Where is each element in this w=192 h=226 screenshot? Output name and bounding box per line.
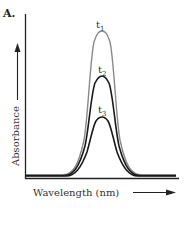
series-t1-label: t1 xyxy=(96,19,105,33)
series-t2-label: t2 xyxy=(98,64,107,78)
y-axis-label: Absorbance xyxy=(10,106,21,167)
absorbance-spectrum-figure: A. t1 t2 t3 Absorbance Wavelength (nm) xyxy=(0,0,192,226)
series-t3-curve xyxy=(26,117,176,176)
y-axis-arrowhead-icon xyxy=(15,43,21,52)
x-axis-label: Wavelength (nm) xyxy=(33,187,119,198)
chart-canvas: t1 t2 t3 Absorbance Wavelength (nm) xyxy=(0,0,192,226)
series-t2-curve xyxy=(26,76,176,176)
series-t3-label: t3 xyxy=(98,104,107,118)
series-t1-curve xyxy=(26,31,176,175)
x-axis-arrowhead-icon xyxy=(166,190,176,196)
